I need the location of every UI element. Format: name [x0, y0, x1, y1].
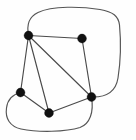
edge-top-left-bottom [29, 36, 50, 114]
edge-top-left-top-right [29, 36, 83, 39]
bottom-vertex [45, 109, 54, 118]
left-vertex [16, 88, 25, 97]
edge-top-left-left [21, 36, 29, 93]
top-right-vertex [78, 34, 87, 43]
edge-top-right-bottom-right [82, 39, 92, 98]
edge-layer [21, 36, 92, 114]
edge-top-left-bottom-right [29, 36, 92, 98]
graph-canvas [0, 0, 136, 140]
bottom-right-vertex [87, 93, 96, 102]
graph-figure [0, 0, 136, 140]
top-left-vertex [24, 31, 33, 40]
vertex-layer [16, 31, 96, 117]
edge-bottom-bottom-right [49, 97, 92, 113]
